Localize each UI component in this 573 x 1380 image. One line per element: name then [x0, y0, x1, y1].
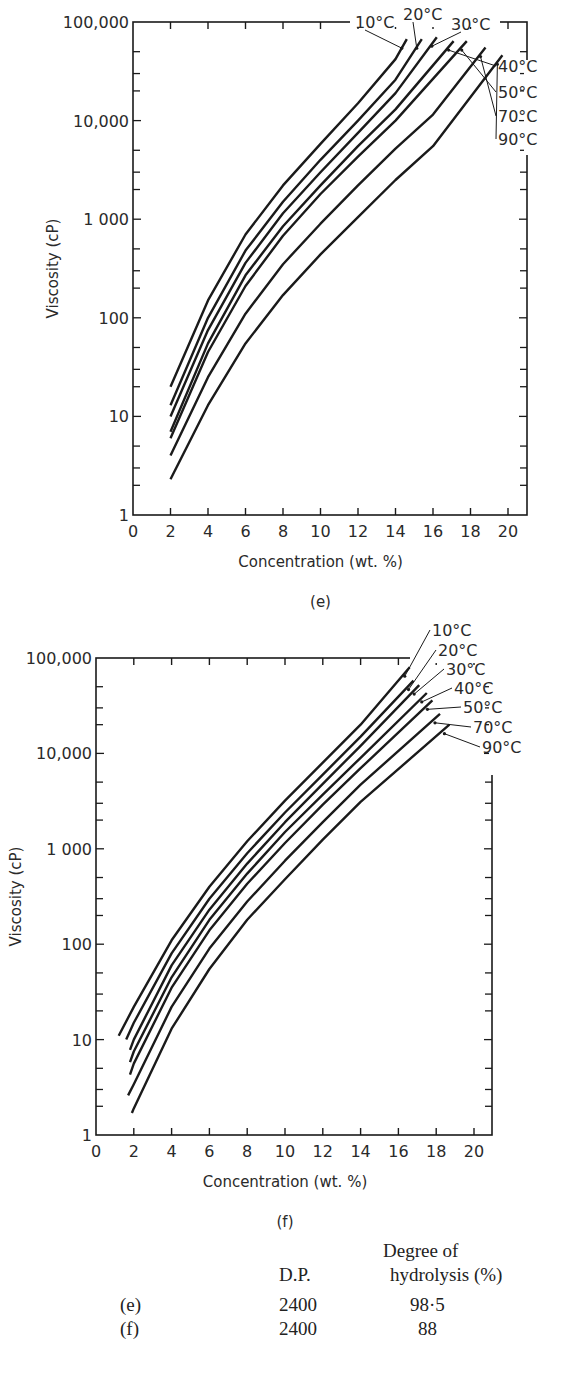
curve-50c — [171, 41, 467, 438]
panel-label: (f) — [277, 1213, 294, 1231]
row-label: (e) — [120, 1294, 141, 1316]
row-hydrolysis: 88 — [418, 1318, 437, 1340]
x-tick-label: 4 — [167, 1142, 177, 1161]
x-tick-label: 8 — [278, 522, 288, 541]
series-label: 90°C — [482, 738, 522, 757]
arrow-head — [430, 45, 433, 48]
leader-arrow — [427, 707, 461, 709]
x-tick-label: 20 — [498, 522, 518, 541]
arrow-head — [433, 721, 436, 724]
arrow-head — [447, 49, 450, 52]
x-tick-label: 16 — [388, 1142, 408, 1161]
leader-arrow — [365, 30, 402, 48]
series-label: 10°C — [355, 13, 395, 32]
header-degree-of: Degree of — [383, 1240, 458, 1262]
x-tick-label: 8 — [242, 1142, 252, 1161]
series-label: 50°C — [463, 698, 503, 717]
series-label: 10°C — [432, 621, 472, 640]
y-tick-label: 1 — [82, 1126, 92, 1145]
y-tick-label: 100,000 — [26, 649, 92, 668]
arrow-head — [496, 63, 499, 66]
y-tick-label: 100 — [61, 935, 92, 954]
arrow-head — [400, 47, 403, 50]
curve-70c — [171, 48, 486, 456]
curve-10c — [119, 667, 410, 1035]
y-tick-label: 10,000 — [73, 112, 129, 131]
series-label: 90°C — [498, 130, 538, 149]
series-label: 20°C — [403, 5, 443, 24]
y-axis-label: Viscosity (cP) — [44, 219, 62, 319]
curve-90c — [171, 55, 503, 479]
x-tick-label: 18 — [426, 1142, 446, 1161]
leader-arrow — [496, 64, 497, 139]
y-tick-label: 100 — [98, 309, 129, 328]
series-label: 50°C — [498, 83, 538, 102]
series-label: 70°C — [498, 107, 538, 126]
arrow-head — [407, 688, 410, 691]
series-label: 30°C — [451, 15, 491, 34]
row-label: (f) — [120, 1318, 139, 1340]
curve-90c — [132, 725, 450, 1113]
x-tick-label: 10 — [275, 1142, 295, 1161]
arrow-head — [479, 55, 482, 58]
x-tick-label: 12 — [348, 522, 368, 541]
table-row: (e) 2400 98·5 — [0, 1294, 573, 1318]
row-dp: 2400 — [279, 1294, 317, 1316]
curve-70c — [128, 714, 440, 1096]
row-hydrolysis: 98·5 — [410, 1294, 445, 1316]
x-axis-label: Concentration (wt. %) — [238, 553, 403, 571]
arrow-head — [403, 675, 406, 678]
x-tick-label: 6 — [204, 1142, 214, 1161]
curve-40c — [171, 41, 454, 432]
arrow-head — [415, 47, 418, 50]
leader-arrow — [435, 723, 471, 727]
x-tick-label: 2 — [129, 1142, 139, 1161]
x-tick-label: 4 — [203, 522, 213, 541]
arrow-head — [413, 692, 416, 695]
x-axis-label: Concentration (wt. %) — [203, 1173, 368, 1191]
series-label: 40°C — [454, 679, 494, 698]
x-tick-label: 12 — [313, 1142, 333, 1161]
x-tick-label: 6 — [240, 522, 250, 541]
x-tick-label: 14 — [385, 522, 405, 541]
series-label: 30°C — [446, 660, 486, 679]
x-tick-label: 10 — [310, 522, 330, 541]
x-tick-label: 18 — [460, 522, 480, 541]
arrow-head — [420, 700, 423, 703]
panel-label: (e) — [310, 593, 331, 611]
series-label: 20°C — [438, 641, 478, 660]
x-tick-label: 2 — [165, 522, 175, 541]
y-tick-label: 10 — [72, 1031, 92, 1050]
table-header-row-1: Degree of — [0, 1240, 573, 1264]
chart-e: 024681012141618201101001 00010,000100,00… — [0, 0, 573, 620]
y-axis-label: Viscosity (cP) — [7, 847, 25, 947]
table-header-row-2: D.P. hydrolysis (%) — [0, 1264, 573, 1288]
x-tick-label: 0 — [91, 1142, 101, 1161]
header-dp: D.P. — [279, 1264, 311, 1286]
plot-frame — [133, 22, 527, 515]
arrow-head — [460, 49, 463, 52]
curve-30c — [171, 37, 437, 416]
x-tick-label: 16 — [423, 522, 443, 541]
x-tick-label: 14 — [350, 1142, 370, 1161]
arrow-head — [426, 708, 429, 711]
leader-arrow — [405, 630, 430, 676]
curve-30c — [130, 685, 419, 1050]
x-tick-label: 20 — [464, 1142, 484, 1161]
chart-f: 024681012141618201101001 00010,000100,00… — [0, 620, 573, 1240]
leader-arrow — [414, 669, 444, 694]
x-tick-label: 0 — [128, 522, 138, 541]
y-tick-label: 100,000 — [63, 13, 129, 32]
y-tick-label: 10 — [109, 407, 129, 426]
y-tick-label: 1 000 — [83, 210, 129, 229]
table-row: (f) 2400 88 — [0, 1318, 573, 1342]
header-hydrolysis: hydrolysis (%) — [390, 1264, 502, 1286]
row-dp: 2400 — [279, 1318, 317, 1340]
y-tick-label: 1 000 — [46, 840, 92, 859]
series-label: 70°C — [473, 718, 513, 737]
arrow-head — [443, 732, 446, 735]
curve-50c — [130, 700, 432, 1074]
y-tick-label: 10,000 — [36, 744, 92, 763]
y-tick-label: 1 — [119, 506, 129, 525]
series-label: 40°C — [498, 57, 538, 76]
